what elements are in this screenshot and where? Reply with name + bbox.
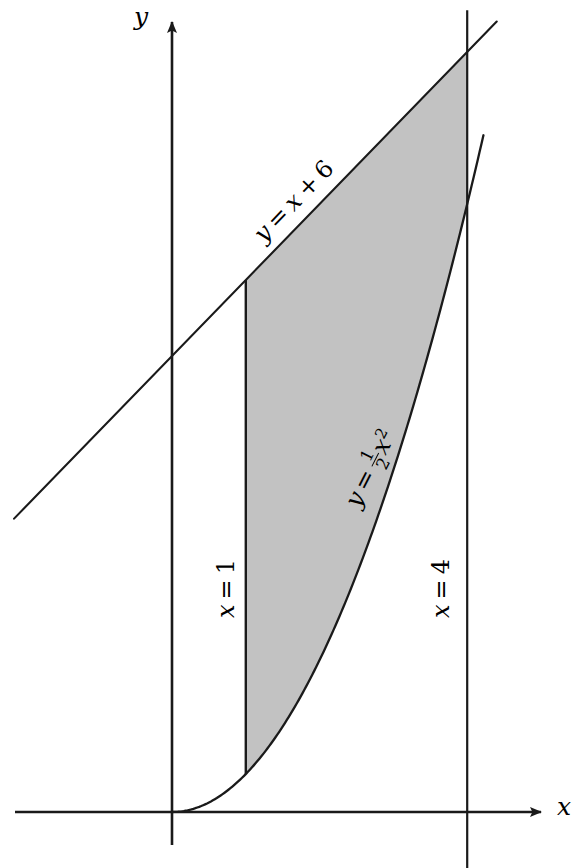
label-x4-value: 4 xyxy=(427,559,455,574)
label-x1-lhs: x xyxy=(212,604,240,618)
label-x1-value: 1 xyxy=(212,559,240,574)
label-x4-equals: = xyxy=(427,579,455,599)
label-x-equals-1: x=1 xyxy=(214,559,238,618)
figure-canvas: y x y=x+6 y= 1 2 x2 x=1 x=4 xyxy=(0,0,578,868)
shaded-area-region xyxy=(246,52,467,774)
x-axis-label: x xyxy=(557,794,571,819)
y-axis-label: y xyxy=(134,4,148,29)
label-x4-lhs: x xyxy=(427,604,455,618)
diagram-svg xyxy=(0,0,578,868)
label-x-equals-4: x=4 xyxy=(429,559,453,618)
label-x1-equals: = xyxy=(212,579,240,599)
